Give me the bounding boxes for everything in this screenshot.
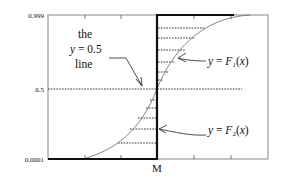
arrow-half-line — [109, 58, 142, 86]
arrow-f1 — [178, 58, 206, 61]
annotation-half-line-2: y = 0.5 — [69, 43, 102, 56]
arrow-head-f1 — [178, 53, 186, 62]
annotation-f2: y = F2(x) — [207, 124, 249, 138]
x-marker-m: M — [152, 162, 162, 174]
y-tick-label-mid: 0.5 — [35, 86, 44, 94]
annotation-f1: y = F1(x) — [207, 55, 249, 69]
step-f2 — [48, 15, 234, 159]
arrow-f2 — [159, 129, 206, 135]
y-tick-label-top: 0.999 — [28, 12, 44, 20]
annotation-half-value: = 0.5 — [75, 43, 102, 55]
annotation-half-line-1: the — [78, 28, 92, 40]
curve-f1 — [83, 15, 250, 159]
annotation-half-line-3: line — [75, 58, 92, 70]
y-tick-label-bottom: 0.0001 — [25, 156, 45, 164]
cdf-diagram: 0.999 0.5 0.0001 the y = 0.5 line y = F1… — [0, 0, 282, 180]
